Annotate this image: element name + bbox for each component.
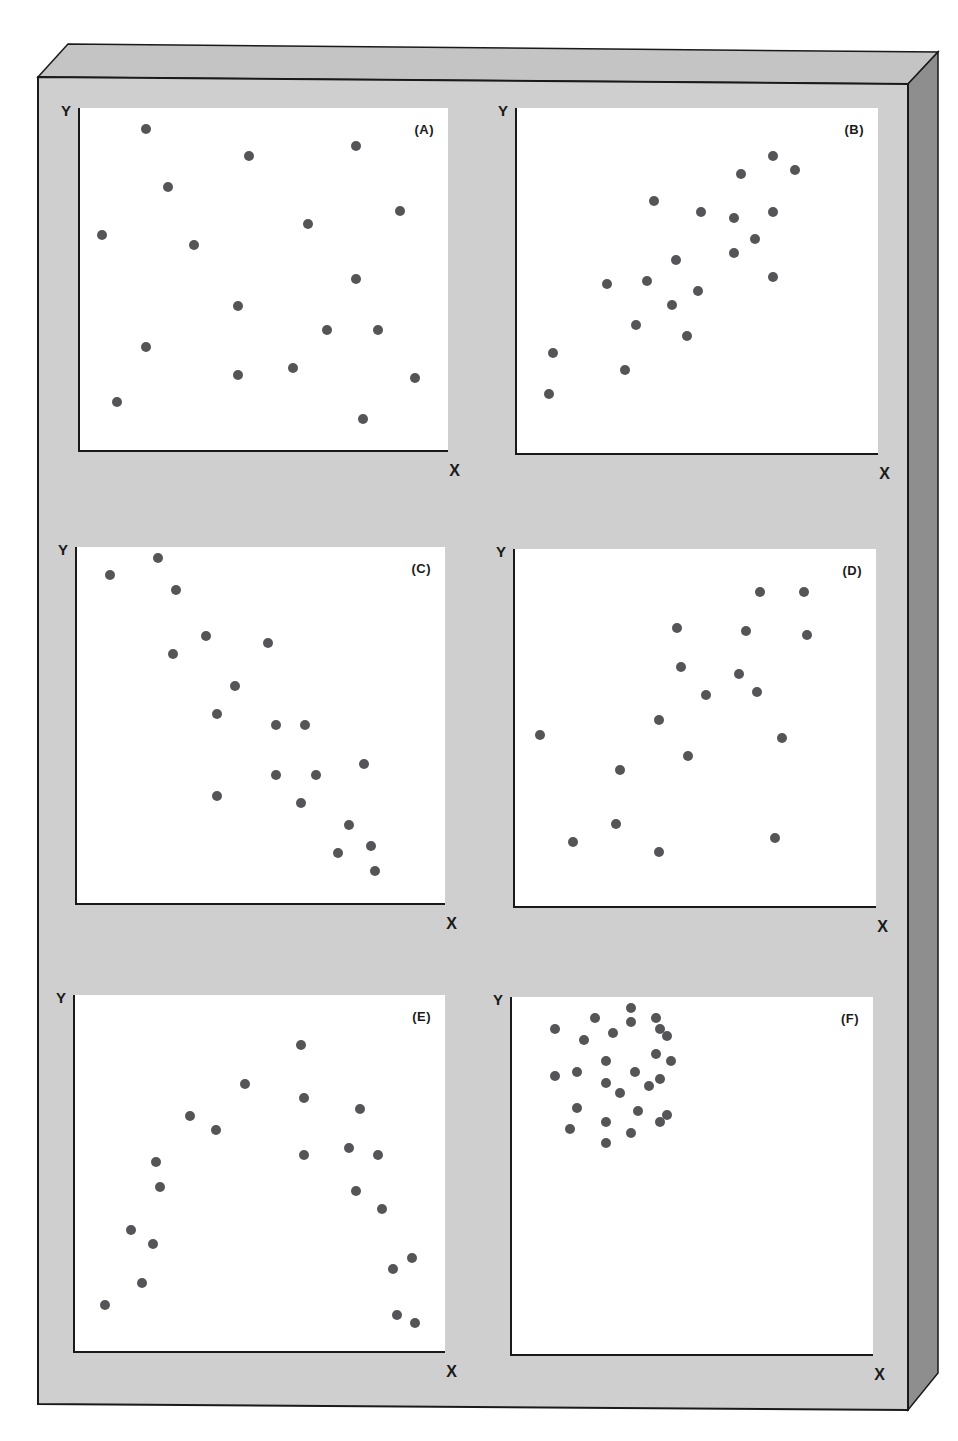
- data-point: [662, 1031, 672, 1041]
- data-point: [535, 730, 545, 740]
- y-axis-label: Y: [56, 989, 66, 1006]
- data-point: [392, 1310, 402, 1320]
- y-axis-label: Y: [61, 102, 71, 119]
- y-axis-label: Y: [496, 543, 506, 560]
- data-point: [171, 585, 181, 595]
- data-point: [163, 182, 173, 192]
- y-axis-label: Y: [493, 991, 503, 1008]
- data-point: [126, 1225, 136, 1235]
- data-point: [263, 638, 273, 648]
- data-point: [358, 414, 368, 424]
- data-point: [100, 1300, 110, 1310]
- data-point: [611, 819, 621, 829]
- data-point: [693, 286, 703, 296]
- data-point: [377, 1204, 387, 1214]
- data-point: [141, 342, 151, 352]
- data-point: [373, 1150, 383, 1160]
- y-axis-label: Y: [498, 102, 508, 119]
- data-point: [112, 397, 122, 407]
- data-point: [608, 1028, 618, 1038]
- data-point: [311, 770, 321, 780]
- panel-letter: (A): [414, 122, 434, 137]
- data-point: [672, 623, 682, 633]
- data-point: [696, 207, 706, 217]
- data-point: [601, 1138, 611, 1148]
- x-axis-label: X: [449, 462, 460, 480]
- data-point: [626, 1003, 636, 1013]
- data-point: [299, 1093, 309, 1103]
- data-point: [351, 1186, 361, 1196]
- y-axis: [75, 547, 77, 905]
- data-point: [651, 1049, 661, 1059]
- data-point: [642, 276, 652, 286]
- data-point: [790, 165, 800, 175]
- data-point: [620, 365, 630, 375]
- data-point: [671, 255, 681, 265]
- data-point: [407, 1253, 417, 1263]
- data-point: [729, 248, 739, 258]
- data-point: [155, 1182, 165, 1192]
- data-point: [734, 669, 744, 679]
- y-axis: [78, 108, 80, 452]
- data-point: [366, 841, 376, 851]
- data-point: [388, 1264, 398, 1274]
- data-point: [548, 348, 558, 358]
- data-point: [359, 759, 369, 769]
- data-point: [568, 837, 578, 847]
- data-point: [565, 1124, 575, 1134]
- data-point: [633, 1106, 643, 1116]
- plot-area: [75, 995, 445, 1351]
- data-point: [296, 1040, 306, 1050]
- y-axis: [73, 995, 75, 1353]
- plot-area: [517, 108, 878, 453]
- data-point: [626, 1017, 636, 1027]
- data-point: [544, 389, 554, 399]
- x-axis-label: X: [446, 1363, 457, 1381]
- data-point: [799, 587, 809, 597]
- data-point: [768, 207, 778, 217]
- data-point: [802, 630, 812, 640]
- data-point: [736, 169, 746, 179]
- data-point: [654, 847, 664, 857]
- data-point: [579, 1035, 589, 1045]
- data-point: [630, 1067, 640, 1077]
- y-axis: [513, 549, 515, 908]
- x-axis: [513, 906, 876, 908]
- data-point: [770, 833, 780, 843]
- data-point: [105, 570, 115, 580]
- data-point: [768, 151, 778, 161]
- data-point: [370, 866, 380, 876]
- data-point: [373, 325, 383, 335]
- data-point: [271, 770, 281, 780]
- data-point: [701, 690, 711, 700]
- plot-area: [77, 547, 445, 903]
- data-point: [649, 196, 659, 206]
- scatter-panel-f: Y X (F): [510, 997, 873, 1356]
- x-axis-label: X: [879, 465, 890, 483]
- data-point: [97, 230, 107, 240]
- data-point: [303, 219, 313, 229]
- y-axis: [510, 997, 512, 1356]
- data-point: [655, 1117, 665, 1127]
- data-point: [666, 1056, 676, 1066]
- data-point: [654, 715, 664, 725]
- data-point: [185, 1111, 195, 1121]
- x-axis: [73, 1351, 445, 1353]
- scatter-panel-d: Y X (D): [513, 549, 876, 908]
- data-point: [137, 1278, 147, 1288]
- data-point: [271, 720, 281, 730]
- data-point: [344, 1143, 354, 1153]
- data-point: [626, 1128, 636, 1138]
- panel-letter: (C): [411, 561, 431, 576]
- data-point: [296, 798, 306, 808]
- panel-letter: (F): [841, 1011, 859, 1026]
- plot-area: [515, 549, 876, 906]
- data-point: [676, 662, 686, 672]
- data-point: [752, 687, 762, 697]
- x-axis: [515, 453, 878, 455]
- data-point: [741, 626, 751, 636]
- scatter-panel-c: Y X (C): [75, 547, 445, 905]
- data-point: [299, 1150, 309, 1160]
- data-point: [750, 234, 760, 244]
- plot-area: [512, 997, 873, 1354]
